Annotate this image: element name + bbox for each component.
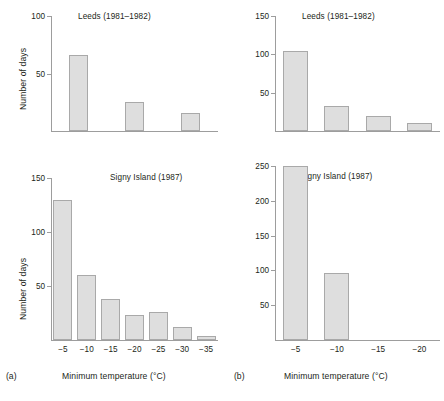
x-tick-label: −10 — [80, 345, 94, 354]
y-axis-label-top-left: Number of days — [18, 48, 28, 110]
y-axis-line — [275, 166, 276, 341]
plot-area-top-left: 50100 — [51, 16, 218, 132]
bar — [197, 336, 216, 340]
bar — [324, 273, 349, 341]
y-tick-label: 50 — [19, 69, 45, 78]
y-tick-mark — [271, 270, 275, 271]
panel-bottom-right: Signy Island (1987) 50100150200250−5−10−… — [222, 160, 444, 401]
y-tick-mark — [47, 16, 51, 17]
bar — [173, 327, 192, 340]
y-tick-label: 100 — [19, 228, 45, 237]
x-tick-label: −25 — [151, 345, 165, 354]
panel-letter-a: (a) — [6, 371, 17, 381]
y-tick-label: 150 — [19, 174, 45, 183]
panel-letter-b: (b) — [234, 371, 245, 381]
bar — [53, 200, 72, 340]
bar — [125, 102, 144, 131]
bar — [125, 315, 144, 340]
x-axis-line — [275, 131, 440, 132]
y-tick-label: 50 — [243, 301, 269, 310]
bar — [366, 116, 391, 131]
x-tick-label: −30 — [175, 345, 189, 354]
y-tick-mark — [271, 54, 275, 55]
x-tick-label: −10 — [330, 345, 344, 354]
y-tick-mark — [47, 232, 51, 233]
bar — [283, 166, 308, 340]
bar — [69, 55, 88, 131]
y-tick-mark — [47, 286, 51, 287]
plot-area-bottom-left: 50100150−5−10−15−20−25−30−35 — [51, 178, 218, 341]
y-tick-label: 150 — [243, 231, 269, 240]
y-tick-label: 50 — [19, 282, 45, 291]
x-tick-label: −20 — [412, 345, 426, 354]
y-tick-mark — [271, 236, 275, 237]
x-tick-label: −20 — [128, 345, 142, 354]
x-tick-label: −5 — [58, 345, 67, 354]
y-tick-mark — [271, 16, 275, 17]
y-tick-label: 50 — [243, 88, 269, 97]
y-axis-line — [275, 16, 276, 132]
bar — [407, 123, 432, 131]
x-tick-label: −35 — [199, 345, 213, 354]
bar — [77, 275, 96, 340]
bar — [283, 51, 308, 132]
bar — [101, 299, 120, 340]
panel-top-left: Leeds (1981–1982) Number of days 50100 — [0, 0, 222, 160]
panel-bottom-left: Signy Island (1987) Number of days 50100… — [0, 160, 222, 401]
x-tick-label: −5 — [291, 345, 300, 354]
plot-area-bottom-right: 50100150200250−5−10−15−20 — [275, 166, 440, 341]
bar — [149, 312, 168, 340]
x-axis-line — [51, 340, 218, 341]
plot-area-top-right: 50100150 — [275, 16, 440, 132]
y-tick-label: 100 — [19, 12, 45, 21]
y-tick-mark — [271, 305, 275, 306]
y-tick-mark — [47, 74, 51, 75]
y-tick-label: 100 — [243, 50, 269, 59]
y-tick-mark — [271, 201, 275, 202]
y-tick-mark — [271, 93, 275, 94]
x-tick-label: −15 — [371, 345, 385, 354]
y-tick-label: 150 — [243, 12, 269, 21]
y-tick-label: 200 — [243, 196, 269, 205]
x-axis-label-bottom-right: Minimum temperature (°C) — [284, 371, 388, 381]
y-tick-mark — [47, 178, 51, 179]
figure-histogram-panels: Leeds (1981–1982) Number of days 50100 L… — [0, 0, 444, 401]
y-axis-line — [51, 178, 52, 341]
x-tick-label: −15 — [104, 345, 118, 354]
panel-top-right: Leeds (1981–1982) 50100150 — [222, 0, 444, 160]
y-tick-mark — [271, 166, 275, 167]
y-tick-label: 100 — [243, 266, 269, 275]
bar — [324, 106, 349, 131]
bar — [181, 113, 200, 131]
x-axis-label-bottom-left: Minimum temperature (°C) — [62, 371, 166, 381]
y-axis-line — [51, 16, 52, 132]
x-axis-line — [275, 340, 440, 341]
y-tick-label: 250 — [243, 162, 269, 171]
x-axis-line — [51, 131, 218, 132]
